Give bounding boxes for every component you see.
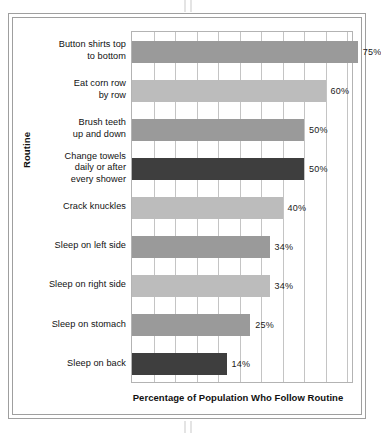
- category-label-line: Sleep on right side: [18, 279, 126, 291]
- category-label: Sleep on left side: [18, 240, 126, 252]
- bar-row: 50%: [132, 119, 352, 141]
- x-axis-title: Percentage of Population Who Follow Rout…: [118, 392, 358, 403]
- category-label-line: Eat corn row: [18, 78, 126, 90]
- category-label-line: to bottom: [18, 51, 126, 63]
- bar-value-label: 25%: [255, 320, 274, 330]
- category-label-line: Crack knuckles: [18, 201, 126, 213]
- category-label: Sleep on back: [18, 358, 126, 370]
- bar[interactable]: [132, 119, 304, 141]
- bar-row: 75%: [132, 41, 352, 63]
- category-label: Button shirts topto bottom: [18, 39, 126, 62]
- category-label-line: Sleep on left side: [18, 240, 126, 252]
- category-label-line: by row: [18, 90, 126, 102]
- bar[interactable]: [132, 41, 358, 63]
- category-label: Eat corn rowby row: [18, 78, 126, 101]
- bar[interactable]: [132, 236, 270, 258]
- bar[interactable]: [132, 314, 250, 336]
- bar-value-label: 50%: [309, 164, 328, 174]
- bar[interactable]: [132, 353, 227, 375]
- bar-row: 40%: [132, 197, 352, 219]
- category-axis-labels: Button shirts topto bottomEat corn rowby…: [18, 31, 126, 383]
- bar[interactable]: [132, 275, 270, 297]
- category-label-line: Button shirts top: [18, 39, 126, 51]
- bar-value-label: 75%: [363, 47, 381, 57]
- category-label: Brush teethup and down: [18, 117, 126, 140]
- category-label-line: Brush teeth: [18, 117, 126, 129]
- bar[interactable]: [132, 80, 326, 102]
- category-label: Crack knuckles: [18, 201, 126, 213]
- bar-row: 50%: [132, 158, 352, 180]
- category-label-line: every shower: [18, 174, 126, 186]
- bar-value-label: 34%: [275, 281, 294, 291]
- bar-value-label: 34%: [275, 242, 294, 252]
- bar-value-label: 40%: [288, 203, 307, 213]
- bar[interactable]: [132, 197, 283, 219]
- bar-row: 34%: [132, 236, 352, 258]
- bar-row: 14%: [132, 353, 352, 375]
- bar-value-label: 14%: [232, 359, 251, 369]
- plot-area: 75%60%50%50%40%34%34%25%14%: [131, 31, 353, 383]
- category-label-line: Sleep on back: [18, 358, 126, 370]
- category-label-line: daily or after: [18, 162, 126, 174]
- category-label-line: Change towels: [18, 151, 126, 163]
- category-label: Sleep on right side: [18, 279, 126, 291]
- bar-row: 34%: [132, 275, 352, 297]
- bar-row: 60%: [132, 80, 352, 102]
- bar[interactable]: [132, 158, 304, 180]
- category-label-line: Sleep on stomach: [18, 319, 126, 331]
- category-label: Sleep on stomach: [18, 319, 126, 331]
- bar-row: 25%: [132, 314, 352, 336]
- bar-series: 75%60%50%50%40%34%34%25%14%: [132, 32, 352, 382]
- category-label: Change towelsdaily or afterevery shower: [18, 151, 126, 186]
- bar-value-label: 50%: [309, 125, 328, 135]
- bar-value-label: 60%: [331, 86, 350, 96]
- category-label-line: up and down: [18, 129, 126, 141]
